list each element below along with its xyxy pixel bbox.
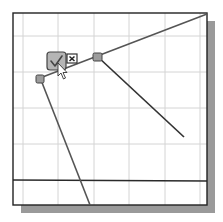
accept-button[interactable]	[47, 52, 66, 70]
accept-button-bg[interactable]	[47, 52, 66, 70]
sketch-canvas[interactable]	[13, 13, 207, 205]
cancel-button[interactable]	[67, 54, 77, 63]
endpoint-marker-icon[interactable]	[36, 75, 44, 83]
sketch-viewport[interactable]	[0, 0, 223, 222]
endpoint-marker-icon[interactable]	[93, 53, 102, 61]
